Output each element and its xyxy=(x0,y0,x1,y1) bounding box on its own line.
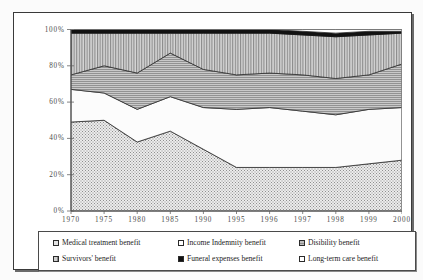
x-axis-tick-label: 1997 xyxy=(285,216,321,224)
legend-row: Medical treatment benefitIncome Indemnit… xyxy=(39,236,415,252)
x-axis-tick-label: 1975 xyxy=(86,216,122,224)
legend-swatch-survivors xyxy=(53,256,59,262)
legend-swatch-income xyxy=(178,240,184,246)
x-axis-tick-label: 2000 xyxy=(384,216,420,224)
y-axis-tick-label: 0% xyxy=(39,207,65,215)
legend-item[interactable]: Income Indemnity benefit xyxy=(178,238,266,247)
legend-row: Survivors' benefitFuneral expenses benef… xyxy=(39,252,415,268)
x-axis-tick-label: 1985 xyxy=(152,216,188,224)
legend-item[interactable]: Funeral expenses benefit xyxy=(178,254,263,263)
legend-label: Funeral expenses benefit xyxy=(187,254,263,263)
area-bands xyxy=(71,30,402,212)
y-axis-tick-label: 20% xyxy=(39,171,65,179)
x-axis-tick-label: 1999 xyxy=(351,216,387,224)
legend-swatch-longterm xyxy=(299,256,305,262)
chart-frame: 100%80%60%40%20%0% 197019751980198519901… xyxy=(13,12,412,270)
y-axis-tick-label: 100% xyxy=(39,26,65,34)
y-axis-tick-label: 60% xyxy=(39,98,65,106)
legend-label: Income Indemnity benefit xyxy=(187,238,266,247)
legend-label: Medical treatment benefit xyxy=(62,238,140,247)
x-axis-tick-label: 1970 xyxy=(53,216,89,224)
chart-legend: Medical treatment benefitIncome Indemnit… xyxy=(38,231,416,271)
y-axis-tick-label: 40% xyxy=(39,134,65,142)
stacked-area-chart xyxy=(58,29,402,223)
plot-area: 100%80%60%40%20%0% 197019751980198519901… xyxy=(58,29,402,223)
legend-item[interactable]: Long-term care benefit xyxy=(299,254,378,263)
legend-swatch-disability xyxy=(299,240,305,246)
x-axis-tick-label: 1996 xyxy=(252,216,288,224)
x-axis-tick-label: 1990 xyxy=(185,216,221,224)
legend-label: Disibility benefit xyxy=(308,238,360,247)
legend-item[interactable]: Survivors' benefit xyxy=(53,254,116,263)
x-axis-tick-label: 1995 xyxy=(219,216,255,224)
chart-screenshot: 100%80%60%40%20%0% 197019751980198519901… xyxy=(0,0,423,280)
y-axis-tick-label: 80% xyxy=(39,62,65,70)
x-axis-tick-label: 1998 xyxy=(318,216,354,224)
legend-item[interactable]: Disibility benefit xyxy=(299,238,360,247)
legend-label: Long-term care benefit xyxy=(308,254,378,263)
legend-label: Survivors' benefit xyxy=(62,254,116,263)
legend-swatch-medical xyxy=(53,240,59,246)
legend-item[interactable]: Medical treatment benefit xyxy=(53,238,140,247)
x-axis-tick-label: 1980 xyxy=(119,216,155,224)
legend-swatch-funeral xyxy=(178,256,184,262)
